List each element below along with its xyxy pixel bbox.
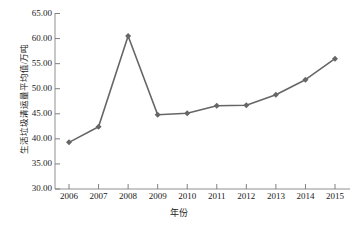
x-axis-label: 年份	[0, 206, 357, 219]
x-axis-tick-label: 2015	[315, 191, 355, 201]
x-axis-tick-labels: 2006200720082009201020112012201320142015	[0, 0, 357, 227]
chart-figure: 生活垃圾清运量平均值/万吨 30.0035.0040.0045.0050.005…	[0, 0, 357, 227]
